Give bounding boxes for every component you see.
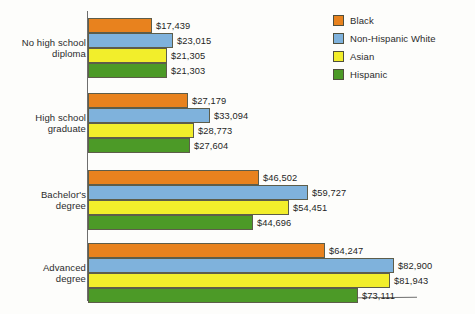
legend-color-swatch (333, 33, 344, 44)
category-label-line: diploma (0, 48, 86, 60)
bar-value-label: $27,604 (194, 141, 228, 151)
category-label-line: Advanced (0, 262, 86, 274)
bar-value-label: $17,439 (156, 21, 190, 31)
category-label-line: High school (0, 112, 86, 124)
category-label-line: degree (0, 200, 86, 212)
bar-row: $27,604 (88, 138, 475, 153)
bar-value-label: $23,015 (177, 36, 211, 46)
bar-value-label: $54,451 (293, 203, 327, 213)
bar-value-label: $59,727 (312, 188, 346, 198)
legend-color-swatch (333, 51, 344, 62)
category-label: No high schooldiploma (0, 37, 86, 60)
legend-color-swatch (333, 69, 344, 80)
bar-row: $54,451 (88, 200, 475, 215)
bar (88, 138, 190, 153)
bar (88, 108, 210, 123)
category-label: Bachelor'sdegree (0, 189, 86, 212)
bar (88, 215, 253, 230)
category-label: Advanceddegree (0, 262, 86, 285)
bar-row: $46,502 (88, 170, 475, 185)
bar-value-label: $82,900 (398, 261, 432, 271)
bar-row: $73,111 (88, 288, 475, 303)
bar (88, 63, 167, 78)
bar (88, 18, 152, 33)
bar-value-label: $46,502 (263, 173, 297, 183)
bar-value-label: $21,303 (171, 66, 205, 76)
bar-row: $44,696 (88, 215, 475, 230)
bar (88, 33, 173, 48)
legend-color-swatch (333, 15, 344, 26)
bar (88, 288, 358, 303)
bar-row: $64,247 (88, 243, 475, 258)
bar (88, 258, 394, 273)
bar-value-label: $73,111 (362, 291, 395, 301)
bar (88, 93, 188, 108)
bar-row: $27,179 (88, 93, 475, 108)
category-label: High schoolgraduate (0, 112, 86, 135)
legend-item[interactable]: Non-Hispanic White (333, 30, 473, 47)
bar (88, 200, 289, 215)
bar-value-label: $44,696 (257, 218, 291, 228)
bar-row: $28,773 (88, 123, 475, 138)
category-label-line: graduate (0, 123, 86, 135)
bar-value-label: $64,247 (329, 246, 363, 256)
bar-value-label: $33,094 (214, 111, 248, 121)
bar (88, 170, 259, 185)
bar-value-label: $28,773 (198, 126, 232, 136)
category-label-line: degree (0, 273, 86, 285)
bar-value-label: $81,943 (394, 276, 428, 286)
bar-chart: No high schooldiploma$17,439$23,015$21,3… (0, 0, 475, 314)
legend-label: Hispanic (350, 69, 387, 80)
bar-row: $59,727 (88, 185, 475, 200)
bar-value-label: $21,305 (171, 51, 205, 61)
bar-row: $81,943 (88, 273, 475, 288)
chart-legend: BlackNon-Hispanic WhiteAsianHispanic (333, 12, 473, 84)
bar (88, 243, 325, 258)
bar-value-label: $27,179 (192, 96, 226, 106)
legend-label: Asian (350, 51, 374, 62)
bar (88, 123, 194, 138)
bar (88, 48, 167, 63)
bar (88, 273, 390, 288)
legend-item[interactable]: Hispanic (333, 66, 473, 83)
legend-label: Non-Hispanic White (350, 33, 436, 44)
legend-item[interactable]: Asian (333, 48, 473, 65)
bar (88, 185, 308, 200)
bar-row: $33,094 (88, 108, 475, 123)
legend-item[interactable]: Black (333, 12, 473, 29)
legend-label: Black (350, 15, 374, 26)
bar-row: $82,900 (88, 258, 475, 273)
category-label-line: No high school (0, 37, 86, 49)
category-label-line: Bachelor's (0, 189, 86, 201)
